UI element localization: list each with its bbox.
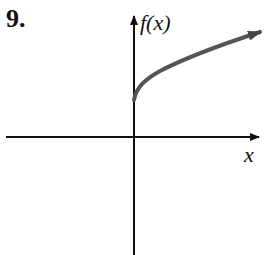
graph: f(x) x	[0, 0, 274, 255]
x-axis-label: x	[243, 142, 254, 167]
y-axis-label: f(x)	[140, 10, 171, 35]
function-curve	[134, 32, 260, 100]
